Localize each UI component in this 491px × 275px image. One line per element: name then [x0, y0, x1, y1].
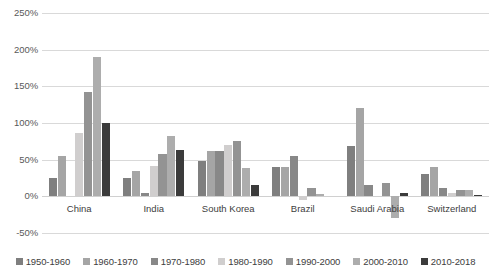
bar-groups-layer [42, 13, 489, 233]
bar[interactable] [215, 151, 223, 196]
bar[interactable] [290, 156, 298, 196]
chart-legend: 1950-19601960-19701970-19801980-19901990… [0, 252, 491, 270]
legend-label: 1960-1970 [93, 256, 138, 267]
bar[interactable] [272, 167, 280, 196]
bar-group-saudi-arabia [347, 13, 408, 233]
legend-swatch-icon [353, 258, 360, 265]
legend-swatch-icon [421, 258, 428, 265]
y-tick-label: 0% [0, 191, 38, 201]
y-tick-label: 50% [0, 155, 38, 165]
bar[interactable] [364, 185, 372, 196]
legend-swatch-icon [286, 258, 293, 265]
bar[interactable] [448, 193, 456, 197]
legend-label: 1970-1980 [161, 256, 206, 267]
bar-group-india [123, 13, 184, 233]
bar[interactable] [430, 167, 438, 196]
bar[interactable] [251, 185, 259, 196]
bar[interactable] [347, 146, 355, 196]
legend-item-1990-2000[interactable]: 1990-2000 [286, 256, 341, 267]
bar-group-brazil [272, 13, 333, 233]
bar[interactable] [356, 108, 364, 196]
y-tick-label: 150% [0, 81, 38, 91]
y-tick-label: -50% [0, 228, 38, 238]
bar[interactable] [400, 193, 408, 197]
bar[interactable] [167, 136, 175, 196]
legend-item-1950-1960[interactable]: 1950-1960 [16, 256, 71, 267]
bar-group-china [49, 13, 110, 233]
legend-label: 1990-2000 [296, 256, 341, 267]
bar[interactable] [465, 190, 473, 196]
bar[interactable] [307, 188, 315, 197]
bar[interactable] [224, 145, 232, 196]
bar-chart: 250%200%150%100%50%0%-50% ChinaIndiaSout… [0, 0, 491, 275]
legend-item-1970-1980[interactable]: 1970-1980 [151, 256, 206, 267]
x-axis-label-south-korea: South Korea [191, 202, 266, 216]
legend-swatch-icon [16, 258, 23, 265]
bar[interactable] [474, 195, 482, 196]
bar-group-switzerland [421, 13, 482, 233]
bar[interactable] [141, 193, 149, 197]
legend-item-2010-2018[interactable]: 2010-2018 [421, 256, 476, 267]
bar[interactable] [439, 188, 447, 197]
y-tick-label: 100% [0, 118, 38, 128]
bar[interactable] [176, 150, 184, 196]
bar[interactable] [84, 92, 92, 196]
bar[interactable] [93, 57, 101, 196]
bar[interactable] [102, 123, 110, 196]
bar[interactable] [49, 178, 57, 196]
legend-label: 1980-1990 [228, 256, 273, 267]
legend-label: 2010-2018 [431, 256, 476, 267]
bar[interactable] [132, 171, 140, 197]
bar[interactable] [58, 156, 66, 196]
legend-swatch-icon [218, 258, 225, 265]
legend-item-1960-1970[interactable]: 1960-1970 [83, 256, 138, 267]
y-axis: 250%200%150%100%50%0%-50% [0, 13, 38, 233]
bar[interactable] [242, 168, 250, 196]
y-tick-label: 250% [0, 8, 38, 18]
bar[interactable] [421, 174, 429, 196]
legend-item-1980-1990[interactable]: 1980-1990 [218, 256, 273, 267]
x-axis-label-switzerland: Switzerland [415, 202, 490, 216]
bar[interactable] [456, 190, 464, 196]
bar[interactable] [123, 178, 131, 196]
bar[interactable] [299, 196, 307, 200]
x-axis-label-saudi-arabia: Saudi Arabia [340, 202, 415, 216]
bar[interactable] [158, 154, 166, 197]
y-tick-label: 200% [0, 45, 38, 55]
x-axis-label-brazil: Brazil [266, 202, 341, 216]
x-axis-label-china: China [42, 202, 117, 216]
x-axis-category-labels: ChinaIndiaSouth KoreaBrazilSaudi ArabiaS… [42, 202, 489, 218]
legend-item-2000-2010[interactable]: 2000-2010 [353, 256, 408, 267]
bar[interactable] [75, 133, 83, 197]
bar[interactable] [150, 166, 158, 197]
legend-swatch-icon [83, 258, 90, 265]
bar[interactable] [281, 167, 289, 196]
gridline--50 [42, 233, 489, 234]
bar[interactable] [316, 194, 324, 196]
x-axis-label-india: India [117, 202, 192, 216]
bar[interactable] [382, 183, 390, 196]
legend-label: 1950-1960 [26, 256, 71, 267]
bar[interactable] [198, 161, 206, 196]
bar-group-south-korea [198, 13, 259, 233]
bar[interactable] [207, 151, 215, 196]
legend-label: 2000-2010 [363, 256, 408, 267]
bar[interactable] [233, 141, 241, 196]
legend-swatch-icon [151, 258, 158, 265]
